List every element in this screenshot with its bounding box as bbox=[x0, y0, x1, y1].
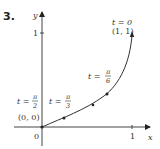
t-pi2-prefix: t = bbox=[17, 97, 29, 106]
point-0-0-label: (0, 0) bbox=[18, 113, 40, 122]
t-pi3-numerator: π bbox=[65, 93, 71, 101]
direction-arrow-icon bbox=[63, 117, 66, 120]
t-pi6-prefix: t = bbox=[88, 72, 100, 81]
y-axis-label: y bbox=[32, 11, 38, 20]
t-pi3-prefix: t = bbox=[49, 97, 61, 106]
parametric-curve-figure: 3. y 1 x 1 0 t = 0 (1, 1) t = π 6 t = π … bbox=[0, 0, 160, 149]
origin-label: 0 bbox=[34, 132, 39, 141]
problem-number: 3. bbox=[3, 10, 15, 23]
t-pi6-numerator: π bbox=[105, 68, 111, 76]
t-pi2-denominator: 2 bbox=[32, 102, 37, 110]
y-tick-label: 1 bbox=[33, 29, 38, 38]
x-axis-label: x bbox=[148, 133, 153, 142]
point-t-pi-6 bbox=[92, 104, 95, 107]
direction-arrow-icon bbox=[106, 93, 109, 96]
point-1-1-label: (1, 1) bbox=[112, 27, 134, 36]
t-pi6-denominator: 6 bbox=[106, 77, 110, 85]
t0-label: t = 0 bbox=[112, 18, 132, 27]
x-tick-label: 1 bbox=[130, 132, 135, 141]
t-pi3-denominator: 3 bbox=[66, 102, 70, 110]
t-pi2-numerator: π bbox=[32, 93, 38, 101]
parametric-curve bbox=[42, 35, 132, 127]
